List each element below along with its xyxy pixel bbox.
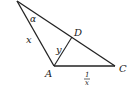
fraction-denominator: x	[85, 79, 89, 87]
vertex-a-label: A	[44, 68, 52, 79]
side-y-label: y	[55, 44, 62, 55]
side-x-label: x	[26, 34, 32, 45]
triangle-diagram: α x y D A C 1 x	[0, 0, 132, 98]
side-top-to-c	[17, 1, 115, 66]
angle-alpha-label: α	[30, 14, 36, 24]
vertex-c-label: C	[119, 63, 127, 74]
fraction-numerator: 1	[85, 71, 89, 79]
vertex-d-label: D	[73, 27, 82, 38]
side-top-to-a	[17, 1, 54, 66]
